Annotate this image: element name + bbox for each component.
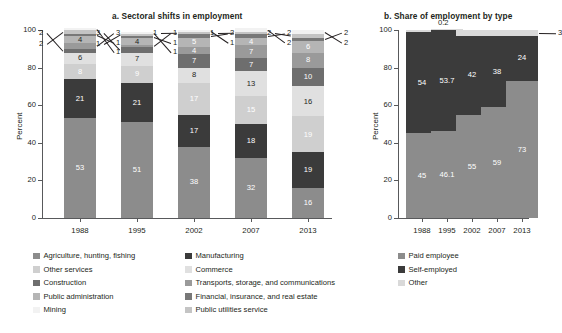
bar-segment[interactable]: 16 [292, 86, 324, 116]
bar-segment[interactable] [235, 34, 267, 38]
legend-item[interactable]: Agriculture, hunting, fishing [33, 252, 185, 260]
bar-segment-value: 6 [306, 43, 310, 51]
bar-segment[interactable]: 6 [292, 41, 324, 52]
bar-segment[interactable]: 13 [235, 71, 267, 95]
bar-segment[interactable]: 7 [235, 45, 267, 58]
bar-segment-value: 16 [304, 98, 312, 106]
bar-segment[interactable]: 17 [178, 115, 210, 147]
bar-segment[interactable]: 21 [64, 79, 96, 118]
bar-segment-value: 19 [304, 131, 312, 139]
legend-item[interactable]: Construction [33, 279, 185, 287]
bar-segment[interactable] [292, 34, 324, 38]
bar-segment[interactable] [64, 30, 96, 34]
bar-segment[interactable]: 53 [64, 118, 96, 218]
bar-segment[interactable]: 9 [121, 66, 153, 83]
bar-segment[interactable]: 32 [235, 158, 267, 218]
bar-segment[interactable] [121, 45, 153, 47]
bar-segment[interactable]: 73 [506, 81, 538, 218]
legend-item[interactable]: Paid employee [398, 252, 528, 260]
legend-item-label: Commerce [196, 266, 233, 274]
legend-item[interactable]: Transports, storage, and communications [185, 279, 363, 287]
bar-segment[interactable]: 7 [178, 54, 210, 67]
legend-item[interactable]: Financial, insurance, and real estate [185, 293, 363, 301]
panel-a-title: a. Sectoral shifts in employment [112, 11, 242, 21]
bar-segment[interactable]: 19 [292, 116, 324, 152]
legend-item[interactable]: Other services [33, 266, 185, 274]
bar-segment[interactable] [292, 38, 324, 42]
bar-segment[interactable]: 21 [121, 83, 153, 122]
stacked-bar[interactable]: 3817178745 [178, 30, 210, 218]
bar-segment[interactable]: 18 [235, 124, 267, 158]
bar-segment-value: 7 [192, 57, 196, 65]
bar-segment[interactable]: 4 [121, 38, 153, 46]
bar-segment-callout-label: 1 [173, 48, 177, 56]
bar-segment[interactable] [178, 34, 210, 38]
bar-segment[interactable] [121, 34, 153, 36]
stacked-bar[interactable]: 161919161086 [292, 30, 324, 218]
bar-segment-callout-label: 0.2 [438, 19, 449, 27]
bar-segment[interactable] [292, 30, 324, 34]
panel-b-y-axis-title: Percent [371, 112, 380, 140]
bar-segment[interactable]: 51 [121, 122, 153, 218]
bar-segment[interactable] [121, 32, 153, 34]
legend-item[interactable]: Public administration [33, 293, 185, 301]
bar-segment[interactable]: 15 [235, 96, 267, 124]
bar-segment[interactable] [64, 28, 96, 30]
bar-segment[interactable]: 8 [178, 68, 210, 83]
bar-segment-value: 59 [493, 159, 501, 167]
bar-segment[interactable] [235, 32, 267, 34]
bar-segment[interactable]: 38 [178, 147, 210, 218]
bar-segment[interactable]: 16 [292, 188, 324, 218]
legend-item[interactable]: Self-employed [398, 266, 528, 274]
bar-segment[interactable]: 17 [178, 83, 210, 115]
stacked-bar[interactable]: 5121974 [121, 30, 153, 218]
bar-segment[interactable] [121, 47, 153, 53]
x-axis-tick-label: 1988 [60, 226, 100, 235]
bar-segment-value: 53 [76, 164, 84, 172]
bar-segment[interactable]: 8 [292, 53, 324, 68]
bar-segment[interactable]: 10 [292, 68, 324, 87]
bar-segment[interactable]: 7 [235, 58, 267, 71]
bar-segment-callout-label: 1 [116, 39, 120, 47]
bar-segment[interactable]: 19 [292, 152, 324, 188]
legend-item-label: Public administration [44, 293, 114, 301]
bar-segment[interactable]: 5 [178, 38, 210, 47]
bar-segment[interactable]: 4 [235, 38, 267, 46]
bar-segment[interactable] [64, 49, 96, 53]
bar-segment[interactable] [121, 36, 153, 38]
bar-segment[interactable] [235, 28, 267, 32]
bar-segment[interactable] [178, 30, 210, 32]
y-axis-tick-label: 80 [10, 64, 36, 72]
bar-segment[interactable]: 4 [64, 36, 96, 44]
bar-segment[interactable] [506, 30, 538, 36]
bar-segment[interactable]: 4 [178, 47, 210, 55]
stacked-bar[interactable]: 7324 [506, 30, 538, 218]
x-axis-tick-label: 1995 [117, 226, 157, 235]
x-axis-tick-label: 2007 [231, 226, 271, 235]
legend-item[interactable]: Commerce [185, 266, 363, 274]
stacked-bar[interactable]: 32181513774 [235, 30, 267, 218]
bar-segment-value: 18 [247, 137, 255, 145]
bar-segment[interactable]: 24 [506, 36, 538, 81]
bar-segment-value: 19 [304, 166, 312, 174]
legend-item[interactable]: Public utilities service [185, 306, 363, 314]
bar-segment[interactable]: 7 [121, 53, 153, 66]
legend-swatch [33, 280, 40, 287]
y-axis-tick [394, 68, 398, 69]
legend-item-label: Agriculture, hunting, fishing [44, 252, 136, 260]
legend-item-label: Transports, storage, and communications [196, 279, 335, 287]
legend-item[interactable]: Manufacturing [185, 252, 363, 260]
legend-item[interactable]: Mining [33, 306, 185, 314]
bar-segment-callout-label: 2 [267, 29, 271, 37]
bar-segment[interactable] [64, 34, 96, 36]
legend-item-label: Other [409, 279, 428, 287]
bar-segment-value: 4 [192, 47, 196, 55]
bar-segment[interactable] [64, 43, 96, 49]
legend-swatch [185, 307, 192, 314]
stacked-bar[interactable]: 5321864 [64, 30, 96, 218]
bar-segment[interactable]: 8 [64, 64, 96, 79]
bar-segment[interactable]: 6 [64, 53, 96, 64]
bar-segment[interactable] [178, 32, 210, 34]
legend-item[interactable]: Other [398, 279, 528, 287]
